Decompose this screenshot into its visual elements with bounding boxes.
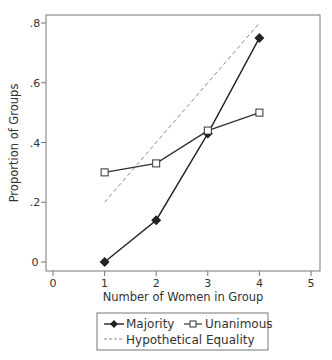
- series-line-hypothetical-equality: [105, 23, 260, 202]
- x-tick-label: 0: [50, 277, 57, 290]
- svg-text:Hypothetical Equality: Hypothetical Equality: [126, 333, 255, 347]
- x-axis-title: Number of Women in Group: [103, 290, 264, 304]
- series-line-majority: [105, 38, 260, 262]
- data-point-unanimous: [204, 127, 211, 134]
- legend-item-hypothetical-equality: Hypothetical Equality: [104, 333, 255, 347]
- x-tick-label: 4: [256, 277, 263, 290]
- data-point-unanimous: [256, 109, 263, 116]
- x-tick-label: 1: [101, 277, 108, 290]
- y-tick-label: .6: [30, 77, 41, 90]
- x-tick-label: 5: [308, 277, 315, 290]
- x-axis: 012345: [50, 271, 315, 290]
- data-point-majority: [254, 33, 264, 43]
- svg-text:Unanimous: Unanimous: [205, 317, 273, 331]
- y-axis-title: Proportion of Groups: [7, 84, 21, 203]
- legend: Majority Unanimous Hypothetical Equality: [97, 313, 273, 350]
- x-tick-label: 2: [153, 277, 160, 290]
- y-tick-label: .4: [30, 137, 41, 150]
- svg-text:Majority: Majority: [126, 317, 174, 331]
- y-tick-label: .2: [30, 196, 41, 209]
- square-marker-icon: [190, 321, 196, 327]
- series-layer: [100, 23, 265, 267]
- y-tick-label: 0: [32, 256, 39, 269]
- data-point-unanimous: [153, 160, 160, 167]
- data-point-unanimous: [101, 169, 108, 176]
- plot-frame: [46, 15, 320, 271]
- y-tick-label: .8: [30, 17, 41, 30]
- line-chart: 0.2.4.6.8 012345 Proportion of Groups Nu…: [0, 0, 332, 360]
- x-tick-label: 3: [204, 277, 211, 290]
- series-line-unanimous: [105, 113, 260, 173]
- y-axis: 0.2.4.6.8: [30, 17, 46, 269]
